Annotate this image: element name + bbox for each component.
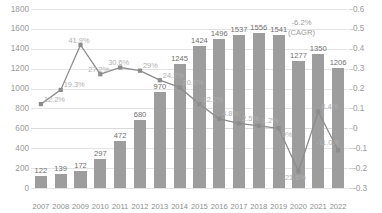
cagr-value: -6.2%: [279, 18, 325, 28]
bar-value-label-2010: 297: [90, 149, 110, 158]
line-marker-2014: [178, 85, 182, 89]
y-tick-mark-right: [349, 108, 353, 109]
y-tick-mark-right: [349, 49, 353, 50]
line-marker-2008: [59, 88, 63, 92]
y-tick-right-0: 0: [353, 124, 381, 133]
y-tick-mark-right: [349, 128, 353, 129]
y-tick-left-1400: 1400: [1, 44, 29, 53]
y-tick-left-200: 200: [1, 164, 29, 173]
growth-label-2017: 2.5%: [242, 114, 259, 123]
y-tick-mark-right: [349, 69, 353, 70]
growth-label-2021: 8.4%: [321, 102, 338, 111]
cagr-annotation: -6.2% (CAGR): [279, 18, 325, 37]
y-tick-right-0.5: 0.5: [353, 24, 381, 33]
y-tick-right--0.1: -0.1: [353, 144, 381, 153]
y-tick-right--0.2: -0.2: [353, 164, 381, 173]
growth-label-2010: 27.2%: [88, 65, 109, 74]
growth-label-2009: 41.9%: [69, 36, 90, 45]
y-tick-right--0.3: -0.3: [353, 184, 381, 193]
x-tick-2009: 2009: [71, 202, 91, 211]
growth-label-2018: 1.2%: [262, 116, 279, 125]
y-tick-right-0.3: 0.3: [353, 64, 381, 73]
y-tick-left-1600: 1600: [1, 24, 29, 33]
line-marker-2022: [336, 148, 340, 152]
x-tick-2007: 2007: [31, 202, 51, 211]
line-marker-2017: [237, 121, 241, 125]
y-tick-mark-right: [349, 9, 353, 10]
y-tick-left-1000: 1000: [1, 84, 29, 93]
growth-label-2008: 19.3%: [64, 80, 85, 89]
x-tick-2018: 2018: [249, 202, 269, 211]
x-tick-2019: 2019: [269, 202, 289, 211]
bar-value-label-2013: 970: [150, 82, 170, 91]
growth-label-2011: 30.6%: [108, 58, 129, 67]
x-tick-2014: 2014: [170, 202, 190, 211]
bar-value-label-2022: 1206: [328, 58, 348, 67]
y-tick-left-600: 600: [1, 124, 29, 133]
line-marker-2021: [316, 110, 320, 114]
line-marker-2019: [277, 126, 281, 130]
bar-value-label-2007: 122: [31, 166, 51, 175]
growth-label-2013: 24.2%: [163, 71, 184, 80]
bar-value-label-2009: 172: [71, 161, 91, 170]
bar-value-label-2018: 1556: [249, 23, 269, 32]
y-tick-left-0: 0: [1, 184, 29, 193]
x-tick-2010: 2010: [90, 202, 110, 211]
line-marker-2016: [217, 117, 221, 121]
bar-value-label-2015: 1424: [190, 36, 210, 45]
y-tick-left-1800: 1800: [1, 5, 29, 14]
y-tick-left-400: 400: [1, 144, 29, 153]
x-tick-2015: 2015: [190, 202, 210, 211]
growth-label-2014: 20.6%: [183, 78, 204, 87]
line-marker-2015: [197, 102, 201, 106]
growth-label-2016: 4.8%: [222, 109, 239, 118]
y-tick-right-0.2: 0.2: [353, 84, 381, 93]
y-tick-left-800: 800: [1, 104, 29, 113]
gridline: [31, 188, 348, 189]
y-tick-right-0.1: 0.1: [353, 104, 381, 113]
growth-label-2020: -21.6%: [283, 173, 306, 182]
line-marker-2007: [39, 102, 43, 106]
y-tick-right-0.4: 0.4: [353, 44, 381, 53]
x-tick-2021: 2021: [308, 202, 328, 211]
x-tick-2016: 2016: [209, 202, 229, 211]
y-tick-mark-right: [349, 148, 353, 149]
combo-bar-line-chart: 12.2%19.3%41.9%27.2%30.6%29%24.2%20.6%12…: [0, 0, 382, 213]
line-marker-2018: [257, 124, 261, 128]
bar-value-label-2008: 139: [51, 164, 71, 173]
bar-value-label-2011: 472: [110, 131, 130, 140]
x-tick-2008: 2008: [51, 202, 71, 211]
bar-value-label-2016: 1496: [209, 29, 229, 38]
y-tick-mark-right: [349, 188, 353, 189]
y-tick-mark-right: [349, 89, 353, 90]
growth-label-2015: 12.2%: [202, 95, 223, 104]
y-tick-mark-right: [349, 29, 353, 30]
y-tick-right-0.6: 0.6: [353, 5, 381, 14]
x-tick-2020: 2020: [289, 202, 309, 211]
y-tick-left-1200: 1200: [1, 64, 29, 73]
bar-value-label-2021: 1350: [308, 44, 328, 53]
bar-value-label-2014: 1245: [170, 54, 190, 63]
x-tick-2013: 2013: [150, 202, 170, 211]
x-tick-2022: 2022: [328, 202, 348, 211]
bar-value-label-2017: 1537: [229, 25, 249, 34]
growth-label-2007: 12.2%: [44, 95, 65, 104]
x-tick-2017: 2017: [229, 202, 249, 211]
growth-label-2019: 0%: [282, 130, 293, 139]
growth-label-2012: 29%: [143, 61, 158, 70]
bar-value-label-2012: 680: [130, 110, 150, 119]
cagr-caption: (CAGR): [279, 28, 325, 38]
x-tick-2011: 2011: [110, 202, 130, 211]
bar-value-label-2020: 1277: [289, 51, 309, 60]
growth-label-2022: -11.0%: [316, 138, 339, 147]
growth-rate-line: [41, 45, 338, 171]
line-marker-2012: [138, 69, 142, 73]
y-tick-mark-right: [349, 168, 353, 169]
x-tick-2012: 2012: [130, 202, 150, 211]
